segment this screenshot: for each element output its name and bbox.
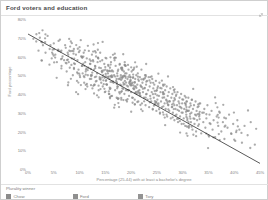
- data-point: [155, 101, 157, 103]
- data-point: [220, 130, 222, 132]
- data-point: [177, 100, 179, 102]
- data-point: [51, 57, 53, 59]
- data-point: [89, 58, 91, 60]
- data-point: [108, 70, 110, 72]
- data-point: [103, 63, 105, 65]
- data-point: [164, 124, 166, 126]
- data-point: [110, 61, 112, 63]
- data-point: [99, 52, 101, 54]
- data-point: [173, 91, 175, 93]
- data-point: [109, 96, 111, 98]
- y-tick-label: 40%: [18, 92, 26, 97]
- data-point: [152, 108, 154, 110]
- data-point: [173, 108, 175, 110]
- legend: Plurality winner ChowFordTory: [1, 184, 268, 200]
- data-point: [152, 82, 154, 84]
- data-point: [109, 88, 111, 90]
- data-point: [69, 67, 71, 69]
- data-point: [188, 125, 190, 127]
- data-point: [110, 63, 112, 65]
- data-point: [216, 121, 218, 123]
- data-point: [104, 66, 106, 68]
- x-tick-label: 0%: [25, 170, 31, 175]
- data-point: [166, 85, 168, 87]
- data-point: [70, 64, 72, 66]
- legend-item[interactable]: Chow: [6, 194, 25, 200]
- data-point: [153, 97, 155, 99]
- data-point: [198, 114, 200, 116]
- data-point: [180, 123, 182, 125]
- data-point: [212, 119, 214, 121]
- data-point: [241, 142, 243, 144]
- data-point: [84, 49, 86, 51]
- data-point: [102, 79, 104, 81]
- data-point: [73, 48, 75, 50]
- x-tick-label: 10%: [75, 170, 83, 175]
- data-point: [44, 37, 46, 39]
- data-point: [113, 107, 115, 109]
- data-point: [37, 50, 39, 52]
- data-point: [152, 93, 154, 95]
- data-point: [109, 75, 111, 77]
- data-point: [178, 102, 180, 104]
- x-axis-title: Percentage (25-44) with at least a bache…: [28, 177, 260, 182]
- data-point: [159, 87, 161, 89]
- x-tick-label: 25%: [153, 170, 161, 175]
- data-point: [179, 115, 181, 117]
- data-point: [77, 68, 79, 70]
- data-point: [83, 82, 85, 84]
- data-point: [203, 112, 205, 114]
- data-point: [188, 110, 190, 112]
- expand-icon[interactable]: [257, 5, 265, 13]
- data-point: [35, 40, 37, 42]
- data-point: [117, 102, 119, 104]
- data-point: [180, 107, 182, 109]
- legend-item[interactable]: Ford: [73, 194, 89, 200]
- data-point: [91, 72, 93, 74]
- data-point: [137, 90, 139, 92]
- data-point: [75, 91, 77, 93]
- data-point: [116, 75, 118, 77]
- data-point: [84, 61, 86, 63]
- data-point: [186, 125, 188, 127]
- data-point: [52, 53, 54, 55]
- data-point: [114, 65, 116, 67]
- data-point: [134, 98, 136, 100]
- legend-label: Tory: [145, 194, 153, 200]
- data-point: [171, 103, 173, 105]
- data-point: [254, 143, 256, 145]
- x-tick-label: 15%: [101, 170, 109, 175]
- data-point: [101, 71, 103, 73]
- data-point: [53, 61, 55, 63]
- data-point: [158, 82, 160, 84]
- data-point: [107, 64, 109, 66]
- data-point: [176, 91, 178, 93]
- data-point: [114, 53, 116, 55]
- data-point: [141, 82, 143, 84]
- data-point: [167, 75, 169, 77]
- data-point: [155, 110, 157, 112]
- data-point: [111, 69, 113, 71]
- data-point: [60, 65, 62, 67]
- data-point: [197, 105, 199, 107]
- data-point: [176, 109, 178, 111]
- data-point: [67, 52, 69, 54]
- y-tick-label: 20%: [18, 129, 26, 134]
- data-point: [87, 45, 89, 47]
- data-point: [132, 87, 134, 89]
- data-point: [91, 87, 93, 89]
- data-point: [167, 108, 169, 110]
- data-point: [92, 43, 94, 45]
- data-point: [72, 74, 74, 76]
- data-point: [64, 44, 66, 46]
- data-point: [95, 80, 97, 82]
- legend-item[interactable]: Tory: [138, 194, 154, 200]
- data-point: [121, 90, 123, 92]
- data-point: [122, 53, 124, 55]
- data-point: [145, 63, 147, 65]
- data-point: [123, 93, 125, 95]
- data-point: [115, 78, 117, 80]
- data-point: [189, 118, 191, 120]
- legend-title: Plurality winner: [6, 186, 35, 192]
- data-point: [123, 75, 125, 77]
